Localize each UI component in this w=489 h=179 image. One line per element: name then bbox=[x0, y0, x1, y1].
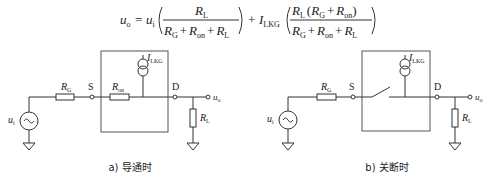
ground-icon bbox=[449, 143, 461, 150]
caption-b: b) 关断时 bbox=[365, 161, 408, 173]
sine-wave-icon bbox=[24, 119, 34, 123]
term2-denominator: RG+Ron+RL bbox=[291, 23, 357, 40]
caption-a: a) 导通时 bbox=[108, 162, 151, 173]
rl-label: RL bbox=[199, 112, 210, 124]
current-source-lower-icon bbox=[400, 66, 410, 76]
panel-a-on-state: ui RG S Ron ILKG D uo RL a) 导通时 bbox=[8, 51, 221, 173]
switch-leakage-diagram: uo = ui RL RG+Ron+RL + ILKG RL(RG+Ron) R… bbox=[0, 0, 489, 179]
formula-term1-coef: ui bbox=[146, 12, 156, 29]
s-label: S bbox=[88, 81, 94, 92]
ground-icon bbox=[187, 143, 199, 150]
output-terminal-node bbox=[206, 95, 210, 99]
ron-label: Ron bbox=[111, 81, 124, 93]
d-label: D bbox=[434, 81, 441, 92]
current-source-lower-icon bbox=[138, 66, 148, 76]
resistor-rl-icon bbox=[190, 109, 196, 127]
output-label: uo bbox=[213, 92, 221, 103]
paren-close-2 bbox=[372, 7, 375, 34]
d-terminal-node bbox=[435, 95, 439, 99]
sine-wave-icon bbox=[283, 118, 293, 122]
source-label: ui bbox=[267, 113, 274, 125]
rg-label: RG bbox=[320, 81, 332, 93]
resistor-rl-icon bbox=[452, 109, 458, 127]
formula-plus: + bbox=[248, 12, 255, 27]
ilkg-label: ILKG bbox=[146, 52, 163, 64]
panel-b-off-state: ui RG S ILKG D uo RL b) 关断时 bbox=[267, 51, 483, 173]
ilkg-label: ILKG bbox=[408, 52, 425, 64]
output-terminal-node bbox=[468, 95, 472, 99]
source-label: ui bbox=[8, 114, 15, 126]
output-label: uo bbox=[475, 92, 483, 103]
ground-icon bbox=[282, 143, 294, 150]
resistor-ron-icon bbox=[110, 94, 129, 100]
rl-label: RL bbox=[461, 112, 472, 124]
resistor-rg-icon bbox=[317, 94, 336, 100]
open-switch-blade-icon bbox=[372, 87, 390, 97]
diagram-canvas: uo = ui RL RG+Ron+RL + ILKG RL(RG+Ron) R… bbox=[0, 0, 489, 179]
paren-open-1 bbox=[159, 7, 162, 34]
s-terminal-node bbox=[90, 95, 94, 99]
s-label: S bbox=[349, 81, 355, 92]
term1-denominator: RG+Ron+RL bbox=[163, 23, 229, 40]
term2-coef: ILKG bbox=[258, 12, 280, 29]
formula: uo = ui RL RG+Ron+RL + ILKG RL(RG+Ron) R… bbox=[120, 3, 375, 40]
term2-numerator: RL(RG+Ron) bbox=[291, 3, 357, 20]
d-label: D bbox=[172, 81, 179, 92]
term1-numerator: RL bbox=[194, 3, 208, 20]
formula-lhs: uo bbox=[120, 12, 131, 29]
ground-icon bbox=[23, 143, 35, 150]
paren-close-1 bbox=[239, 7, 242, 34]
d-terminal-node bbox=[173, 95, 177, 99]
rg-label: RG bbox=[60, 81, 72, 93]
resistor-rg-icon bbox=[56, 94, 74, 100]
paren-open-2 bbox=[287, 7, 290, 34]
s-terminal-node bbox=[351, 95, 355, 99]
formula-eq: = bbox=[135, 12, 142, 27]
